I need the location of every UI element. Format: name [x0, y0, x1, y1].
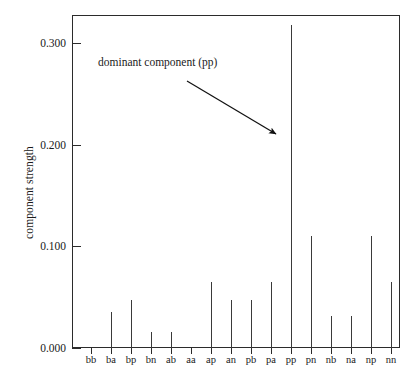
y-axis-title: component strength — [18, 0, 40, 385]
spike-pn — [311, 236, 312, 348]
spike-np — [371, 236, 372, 348]
spike-pp — [291, 25, 292, 348]
spike-ap — [211, 282, 212, 348]
spike-nn — [391, 282, 392, 348]
y-tick-label-0: 0.000 — [20, 343, 66, 355]
y-tick-label-3: 0.300 — [20, 38, 66, 50]
y-tick-mark-1 — [72, 246, 81, 247]
y-tick-label-2: 0.200 — [20, 140, 66, 152]
spike-pb — [251, 300, 252, 348]
spike-na — [351, 316, 352, 348]
y-tick-label-1: 0.100 — [20, 241, 66, 253]
x-tick-label-nn: nn — [376, 354, 406, 367]
chart-container: component strength 0.000 0.100 0.200 0.3… — [0, 0, 414, 385]
y-tick-mark-0 — [72, 348, 81, 349]
spike-pa — [271, 282, 272, 348]
y-tick-mark-2 — [72, 145, 81, 146]
spike-bn — [151, 332, 152, 348]
spike-ab — [171, 332, 172, 348]
spike-bp — [131, 300, 132, 348]
spike-nb — [331, 316, 332, 348]
y-tick-mark-3 — [72, 43, 81, 44]
annotation-label: dominant component (pp) — [98, 56, 217, 70]
spike-ba — [111, 312, 112, 348]
spike-an — [231, 300, 232, 348]
